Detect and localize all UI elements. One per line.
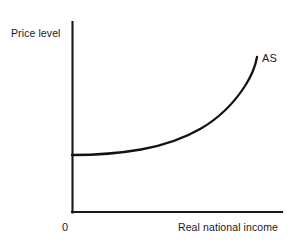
x-axis-label: Real national income: [178, 221, 278, 233]
as-curve-label: AS: [262, 52, 277, 64]
as-supply-curve: [72, 57, 257, 155]
as-curve-chart: Price level Real national income AS 0: [0, 0, 298, 248]
y-axis-label: Price level: [11, 27, 61, 39]
origin-label: 0: [62, 221, 68, 233]
